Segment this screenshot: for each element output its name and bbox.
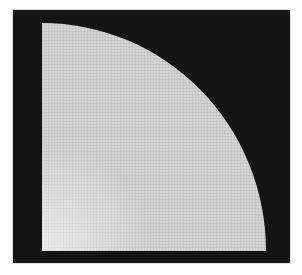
quarter-circle-mesh — [42, 23, 266, 251]
black-frame — [13, 10, 290, 263]
